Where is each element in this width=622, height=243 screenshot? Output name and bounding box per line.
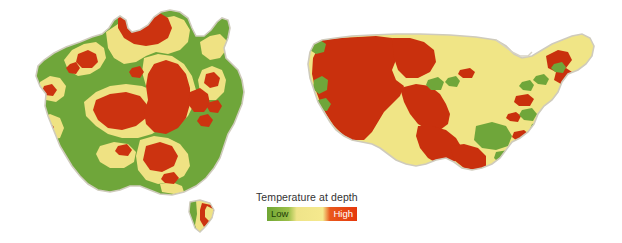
legend-label-low: Low: [271, 208, 288, 220]
legend: Temperature at depth Low High: [256, 191, 360, 221]
usa-base-layer: [300, 14, 618, 194]
legend-title: Temperature at depth: [256, 191, 360, 204]
figure-canvas: Temperature at depth Low High: [0, 0, 622, 243]
legend-label-high: High: [333, 208, 353, 220]
legend-bar-wrap: Low High: [267, 207, 357, 221]
australia-geothermal-map: [14, 6, 252, 238]
usa-geothermal-map: [300, 14, 618, 194]
